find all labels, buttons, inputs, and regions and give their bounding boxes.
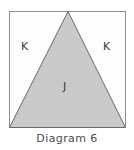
diagram-figure: K K J Diagram 6 [0,0,134,150]
diagram-caption: Diagram 6 [0,132,134,145]
region-label-j: J [63,81,66,92]
region-label-k-left: K [21,41,28,52]
diagram-graphic [0,0,134,150]
region-label-k-right: K [103,41,110,52]
